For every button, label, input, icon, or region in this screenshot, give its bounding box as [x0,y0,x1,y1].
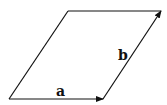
vector-b-arrow [103,11,161,99]
vector-a-label: a [56,83,65,99]
vector-b-label: b [118,47,128,63]
parallelogram-diagram: a b [0,0,167,105]
